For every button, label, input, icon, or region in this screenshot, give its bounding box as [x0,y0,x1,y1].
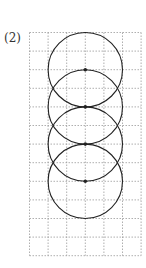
circle-grid-diagram [0,0,146,268]
center-dot-4 [84,180,88,184]
center-dot-3 [84,142,88,146]
center-dot-2 [84,105,88,109]
center-dot-1 [84,68,88,72]
